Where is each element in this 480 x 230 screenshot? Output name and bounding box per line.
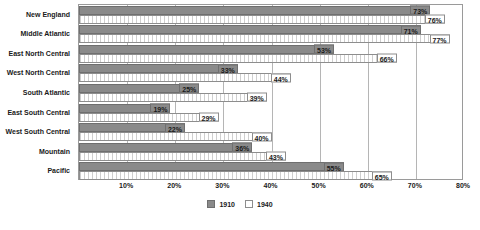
bar-value-label: 40%	[252, 132, 272, 141]
bar-value-label: 66%	[377, 54, 397, 63]
category-label: South Atlantic	[23, 89, 70, 96]
bar-group: 77%	[79, 34, 462, 43]
bar-1940	[79, 54, 397, 63]
bar-row: 55%65%	[79, 161, 462, 181]
bar-group: 40%	[79, 132, 462, 141]
x-tick-label: 60%	[360, 182, 374, 189]
category-label: Mountain	[39, 147, 70, 154]
bar-value-label: 19%	[150, 104, 170, 113]
bar-value-label: 43%	[266, 152, 286, 161]
x-tick-label: 20%	[167, 182, 181, 189]
bar-row: 19%29%	[79, 103, 462, 123]
bar-1910	[79, 45, 334, 54]
bar-group: 29%	[79, 113, 462, 122]
bar-value-label: 39%	[247, 93, 267, 102]
bar-group: 39%	[79, 93, 462, 102]
legend-item: 1910	[207, 200, 235, 208]
bar-group: 71%	[79, 25, 462, 34]
bar-1940	[79, 73, 291, 82]
bar-group: 43%	[79, 152, 462, 161]
bar-group: 76%	[79, 15, 462, 24]
x-axis: 10%20%30%40%50%60%70%80%	[78, 182, 463, 196]
x-tick-label: 10%	[119, 182, 133, 189]
category-label: West South Central	[6, 128, 70, 135]
bar-value-label: 22%	[165, 123, 185, 132]
bar-value-label: 33%	[218, 64, 238, 73]
bar-group: 19%	[79, 104, 462, 113]
bar-row: 25%39%	[79, 83, 462, 103]
bar-value-label: 36%	[232, 143, 252, 152]
bar-row: 36%43%	[79, 142, 462, 162]
bar-group: 33%	[79, 64, 462, 73]
bar-1910	[79, 162, 344, 171]
x-tick-label: 70%	[408, 182, 422, 189]
bar-1910	[79, 25, 421, 34]
chart-legend: 19101940	[0, 200, 480, 208]
bar-group: 73%	[79, 6, 462, 15]
bar-1940	[79, 132, 272, 141]
category-label: Pacific	[47, 167, 70, 174]
bar-value-label: 65%	[372, 171, 392, 180]
plot-area: 73%76%71%77%53%66%33%44%25%39%19%29%22%4…	[78, 4, 463, 180]
bar-value-label: 25%	[179, 84, 199, 93]
category-label: East North Central	[9, 49, 70, 56]
bar-group: 44%	[79, 73, 462, 82]
bar-rows: 73%76%71%77%53%66%33%44%25%39%19%29%22%4…	[79, 5, 462, 179]
bar-1940	[79, 34, 450, 43]
bar-chart: New EnglandMiddle AtlanticEast North Cen…	[0, 0, 480, 230]
bar-group: 65%	[79, 171, 462, 180]
bar-value-label: 71%	[401, 25, 421, 34]
legend-item: 1940	[245, 200, 273, 208]
bar-value-label: 73%	[410, 6, 430, 15]
bar-1910	[79, 143, 252, 152]
bar-group: 55%	[79, 162, 462, 171]
bar-group: 36%	[79, 143, 462, 152]
bar-row: 71%77%	[79, 25, 462, 45]
bar-1940	[79, 171, 392, 180]
bar-row: 33%44%	[79, 64, 462, 84]
bar-1910	[79, 6, 430, 15]
bar-value-label: 55%	[324, 162, 344, 171]
bar-group: 22%	[79, 123, 462, 132]
bar-value-label: 53%	[314, 45, 334, 54]
category-label: Middle Atlantic	[20, 30, 70, 37]
bar-row: 73%76%	[79, 5, 462, 25]
bar-1940	[79, 93, 267, 102]
legend-label: 1910	[219, 201, 235, 208]
bar-value-label: 76%	[425, 15, 445, 24]
category-axis: New EnglandMiddle AtlanticEast North Cen…	[0, 4, 74, 180]
category-label: East South Central	[7, 108, 70, 115]
bar-value-label: 77%	[430, 34, 450, 43]
bar-row: 22%40%	[79, 122, 462, 142]
legend-swatch-1910	[207, 200, 215, 208]
category-label: New England	[26, 10, 70, 17]
bar-group: 66%	[79, 54, 462, 63]
legend-label: 1940	[257, 201, 273, 208]
x-tick-label: 80%	[456, 182, 470, 189]
bar-row: 53%66%	[79, 44, 462, 64]
bar-1940	[79, 15, 445, 24]
legend-swatch-1940	[245, 200, 253, 208]
bar-group: 53%	[79, 45, 462, 54]
x-tick-label: 30%	[215, 182, 229, 189]
x-tick-label: 50%	[312, 182, 326, 189]
bar-value-label: 29%	[199, 113, 219, 122]
x-tick-label: 40%	[263, 182, 277, 189]
bar-1940	[79, 152, 286, 161]
bar-group: 25%	[79, 84, 462, 93]
bar-1910	[79, 64, 238, 73]
category-label: West North Central	[7, 69, 70, 76]
bar-value-label: 44%	[271, 73, 291, 82]
